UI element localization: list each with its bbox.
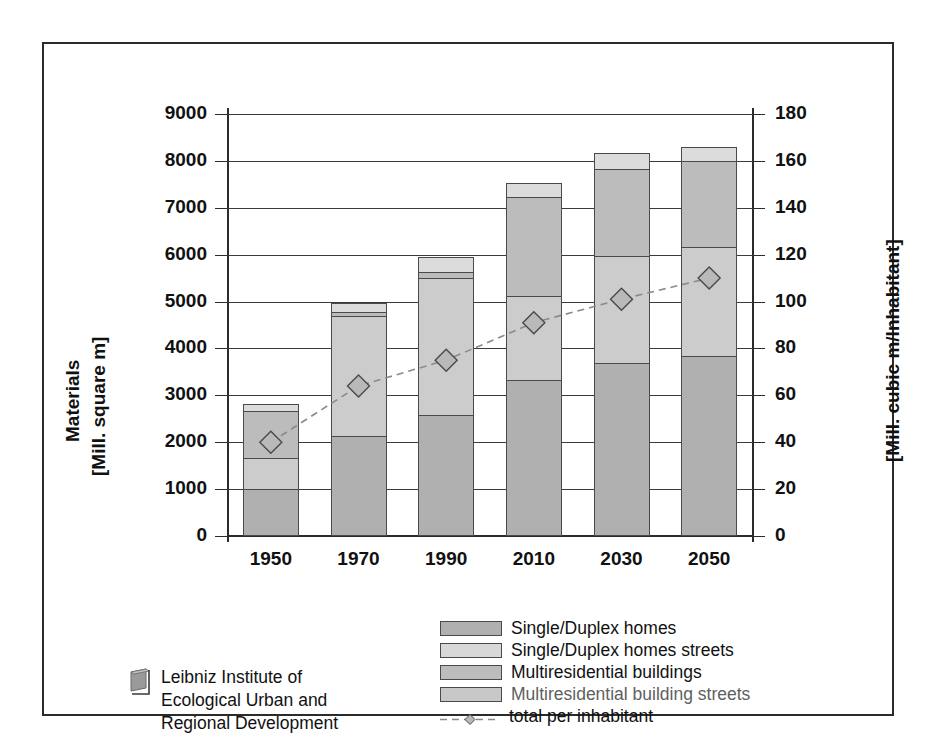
y-axis-left-tick: [215, 255, 227, 256]
y-axis-left-tick: [215, 489, 227, 490]
line-series-overlay: [227, 114, 753, 536]
y-axis-left-tick-label: 0: [109, 524, 207, 546]
y-axis-right-tick: [753, 442, 765, 443]
legend-item[interactable]: Multiresidential building streets: [440, 684, 750, 705]
y-axis-right-tick-label: 160: [775, 149, 845, 171]
y-axis-left-tick: [215, 395, 227, 396]
legend-swatch: [440, 621, 502, 636]
legend-item[interactable]: Single/Duplex homes streets: [440, 640, 750, 661]
legend-item[interactable]: total per inhabitant: [440, 706, 750, 727]
y-axis-left-tick: [215, 114, 227, 115]
legend-label: Multiresidential buildings: [511, 662, 702, 683]
legend-item[interactable]: Multiresidential buildings: [440, 662, 750, 683]
line-marker-diamond[interactable]: [348, 375, 370, 397]
line-marker-diamond[interactable]: [611, 288, 633, 310]
y-axis-right-tick-label: 140: [775, 196, 845, 218]
y-axis-left-tick-label: 1000: [109, 477, 207, 499]
line-marker-diamond[interactable]: [523, 312, 545, 334]
y-axis-left-tick: [215, 302, 227, 303]
institute-name-line2: Ecological Urban and: [161, 689, 338, 712]
y-axis-right-tick-label: 40: [775, 430, 845, 452]
y-axis-right-tick: [753, 395, 765, 396]
y-axis-right-tick: [753, 348, 765, 349]
legend-swatch: [440, 643, 502, 658]
legend-label: Single/Duplex homes: [511, 618, 676, 639]
y-axis-left-tick-label: 6000: [109, 243, 207, 265]
y-axis-right-tick-label: 180: [775, 102, 845, 124]
y-axis-right-tick: [753, 208, 765, 209]
y-axis-left-tick-label: 9000: [109, 102, 207, 124]
y-axis-right-tick: [753, 536, 765, 537]
y-axis-right-tick-label: 80: [775, 336, 845, 358]
legend-label: Multiresidential building streets: [511, 684, 750, 705]
line-marker-diamond[interactable]: [260, 431, 282, 453]
line-marker-diamond[interactable]: [698, 267, 720, 289]
line-marker-diamond[interactable]: [435, 349, 457, 371]
y-axis-left-title-line1: Materials: [62, 360, 84, 442]
y-axis-left-tick-label: 8000: [109, 149, 207, 171]
y-axis-right-tick-label: 0: [775, 524, 845, 546]
y-axis-left-tick: [215, 348, 227, 349]
chart-page: Materials [Mill. square m] [Mill. cubic …: [0, 0, 937, 752]
y-axis-right-tick: [753, 255, 765, 256]
y-axis-right-tick-label: 120: [775, 243, 845, 265]
institute-name-line1: Leibniz Institute of: [161, 666, 338, 689]
y-axis-left-tick-label: 5000: [109, 290, 207, 312]
y-axis-right-tick: [753, 114, 765, 115]
y-axis-left-tick-label: 3000: [109, 383, 207, 405]
legend-label: Single/Duplex homes streets: [511, 640, 734, 661]
y-axis-left-title-line2: [Mill. square m]: [88, 337, 110, 476]
legend-swatch: [440, 687, 502, 702]
institute-footer: Leibniz Institute of Ecological Urban an…: [129, 666, 338, 735]
x-axis-tick-label: 2050: [654, 548, 764, 570]
y-axis-right-tick: [753, 489, 765, 490]
total-per-inhabitant-line: [271, 278, 709, 442]
y-axis-left-tick: [215, 161, 227, 162]
y-axis-right-title: [Mill. cubic m/Inhabitant]: [882, 239, 904, 462]
chart-legend: Single/Duplex homesSingle/Duplex homes s…: [440, 618, 750, 728]
legend-swatch: [440, 665, 502, 680]
legend-label: total per inhabitant: [509, 706, 653, 727]
y-axis-left-tick: [215, 536, 227, 537]
plot-area: 0100020003000400050006000700080009000020…: [227, 114, 753, 536]
institute-name-line3: Regional Development: [161, 712, 338, 735]
y-axis-right-tick-label: 100: [775, 290, 845, 312]
book-logo-icon: [129, 668, 155, 698]
y-axis-left-tick: [215, 442, 227, 443]
y-axis-left-tick-label: 4000: [109, 336, 207, 358]
y-axis-left-tick-label: 7000: [109, 196, 207, 218]
y-axis-right-tick: [753, 302, 765, 303]
legend-line-marker-icon: [440, 710, 500, 723]
institute-name: Leibniz Institute of Ecological Urban an…: [161, 666, 338, 735]
y-axis-left-tick: [215, 208, 227, 209]
y-axis-right-tick-label: 60: [775, 383, 845, 405]
y-axis-left-tick-label: 2000: [109, 430, 207, 452]
legend-item[interactable]: Single/Duplex homes: [440, 618, 750, 639]
chart-frame: Materials [Mill. square m] [Mill. cubic …: [42, 42, 894, 716]
y-axis-right-tick: [753, 161, 765, 162]
y-axis-right-tick-label: 20: [775, 477, 845, 499]
